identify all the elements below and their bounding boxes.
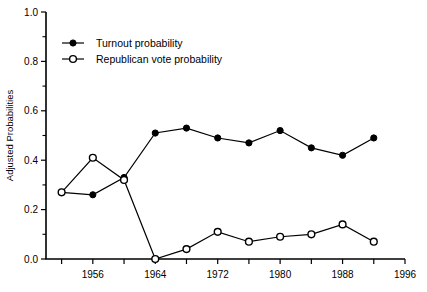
chart-container: 0.00.20.40.60.81.01956196419721980198819… bbox=[0, 0, 427, 292]
data-point-republican bbox=[308, 231, 315, 238]
data-point-turnout bbox=[308, 145, 314, 151]
series-line-republican bbox=[62, 158, 374, 259]
legend-marker-filled-circle-icon bbox=[70, 40, 76, 46]
data-point-turnout bbox=[90, 192, 96, 198]
data-point-republican bbox=[183, 246, 190, 253]
data-point-republican bbox=[58, 189, 65, 196]
data-point-republican bbox=[277, 233, 284, 240]
data-point-republican bbox=[370, 238, 377, 245]
data-point-republican bbox=[121, 177, 128, 184]
y-axis-title: Adjusted Probabilities bbox=[4, 90, 15, 182]
x-tick-label: 1988 bbox=[331, 269, 354, 280]
legend-label-republican: Republican vote probability bbox=[96, 53, 223, 65]
data-point-republican bbox=[246, 238, 253, 245]
y-tick-label: 0.2 bbox=[24, 204, 38, 215]
line-chart: 0.00.20.40.60.81.01956196419721980198819… bbox=[0, 0, 427, 292]
data-point-turnout bbox=[277, 127, 283, 133]
data-point-turnout bbox=[183, 125, 189, 131]
y-tick-label: 1.0 bbox=[24, 7, 38, 18]
x-tick-label: 1972 bbox=[207, 269, 230, 280]
x-tick-label: 1956 bbox=[82, 269, 105, 280]
data-point-turnout bbox=[152, 130, 158, 136]
x-tick-label: 1964 bbox=[144, 269, 167, 280]
data-point-republican bbox=[339, 221, 346, 228]
data-point-turnout bbox=[246, 140, 252, 146]
data-point-turnout bbox=[339, 152, 345, 158]
data-point-turnout bbox=[215, 135, 221, 141]
y-tick-label: 0.8 bbox=[24, 56, 38, 67]
chart-axes bbox=[46, 12, 405, 259]
data-point-turnout bbox=[371, 135, 377, 141]
legend-marker-open-circle-icon bbox=[70, 56, 77, 63]
x-tick-label: 1980 bbox=[269, 269, 292, 280]
y-tick-label: 0.4 bbox=[24, 155, 38, 166]
y-tick-label: 0.0 bbox=[24, 254, 38, 265]
x-tick-label: 1996 bbox=[394, 269, 417, 280]
data-point-republican bbox=[89, 154, 96, 161]
data-point-republican bbox=[152, 256, 159, 263]
data-point-republican bbox=[214, 228, 221, 235]
legend-label-turnout: Turnout probability bbox=[96, 37, 183, 49]
y-tick-label: 0.6 bbox=[24, 105, 38, 116]
